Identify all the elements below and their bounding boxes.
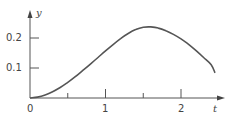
axes [30,14,220,98]
origin-label: 0 [27,104,33,114]
x-axis-arrow-icon [217,96,225,101]
y-tick-label-0.1: 0.1 [6,63,22,73]
y-axis-arrow-icon [28,10,33,18]
y-tick-label-0.2: 0.2 [6,33,22,43]
x-tick-label-1: 1 [102,104,108,114]
x-axis-label: t [213,104,217,114]
data-curve [30,27,215,98]
y-axis-label: y [36,8,42,18]
x-tick-label-2: 2 [178,104,184,114]
line-chart [0,0,237,120]
ticks [30,38,181,98]
